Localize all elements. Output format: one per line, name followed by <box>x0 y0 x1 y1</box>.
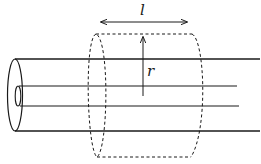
dashed-right-arc <box>191 34 203 157</box>
inner-conductor <box>15 86 239 106</box>
coaxial-cable-diagram: l r <box>0 0 260 164</box>
length-arrow: l <box>101 1 187 22</box>
dashed-left-ellipse <box>88 34 106 157</box>
inner-end-ellipse <box>15 86 21 106</box>
radius-arrow: r <box>143 37 155 96</box>
length-label: l <box>140 1 145 19</box>
radius-label: r <box>147 62 155 80</box>
gaussian-cylinder-dashed <box>88 34 203 157</box>
outer-conductor <box>8 59 261 131</box>
